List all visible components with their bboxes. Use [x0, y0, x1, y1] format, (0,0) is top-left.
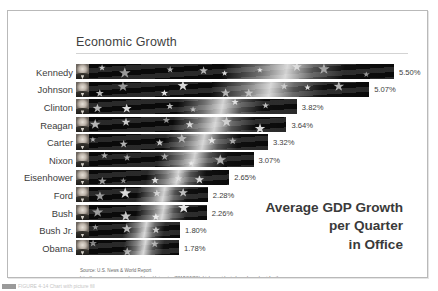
- chart-bar[interactable]: [76, 170, 229, 185]
- chart-title: Economic Growth: [76, 35, 177, 49]
- president-portrait-thumbnail: [76, 240, 89, 255]
- flag-stars-overlay: [76, 205, 207, 220]
- flag-stars-overlay: [76, 152, 254, 167]
- chart-bar-row[interactable]: Clinton3.82%: [8, 98, 428, 116]
- flag-stars-overlay: [76, 222, 180, 237]
- bar-value-label: 3.32%: [273, 138, 295, 147]
- bar-value-label: 5.50%: [399, 67, 421, 76]
- chart-bar-row[interactable]: Carter3.32%: [8, 133, 428, 151]
- flag-stars-overlay: [76, 170, 229, 185]
- bar-fill-flag: [76, 170, 229, 185]
- bar-fill-flag: [76, 64, 394, 79]
- caption-text: FIGURE 4-14 Chart with picture fill: [18, 283, 95, 289]
- bar-fill-flag: [76, 82, 369, 97]
- bar-category-label: Clinton: [44, 101, 73, 112]
- president-portrait-thumbnail: [76, 99, 89, 114]
- bar-fill-flag: [76, 152, 254, 167]
- source-name: Source: U.S. News & World Report: [80, 267, 302, 275]
- bar-value-label: 2.65%: [234, 173, 256, 182]
- chart-callout-text: Average GDP Growth per Quarter in Office: [213, 199, 403, 254]
- bar-value-label: 5.07%: [374, 85, 396, 94]
- title-underline-rule: [76, 53, 408, 54]
- caption-chip: [2, 284, 16, 289]
- bar-fill-flag: [76, 117, 286, 132]
- chart-bar[interactable]: [76, 187, 208, 202]
- president-portrait-thumbnail: [76, 82, 89, 97]
- president-portrait-thumbnail: [76, 152, 89, 167]
- bar-category-label: Kennedy: [36, 66, 73, 77]
- bar-category-label: Ford: [54, 189, 73, 200]
- chart-bar[interactable]: [76, 117, 286, 132]
- slide-frame: Economic Growth Kennedy5.50%Johnson5.07%…: [7, 10, 428, 278]
- source-attribution: Source: U.S. News & World Report http://…: [80, 267, 302, 278]
- callout-line-1: Average GDP Growth: [213, 199, 403, 217]
- president-portrait-thumbnail: [76, 222, 89, 237]
- chart-bar[interactable]: [76, 240, 179, 255]
- flag-stars-overlay: [76, 82, 369, 97]
- chart-bar-row[interactable]: Nixon3.07%: [8, 151, 428, 169]
- president-portrait-thumbnail: [76, 205, 89, 220]
- flag-stars-overlay: [76, 187, 208, 202]
- president-portrait-thumbnail: [76, 187, 89, 202]
- bar-fill-flag: [76, 222, 180, 237]
- bar-category-label: Bush: [52, 207, 73, 218]
- bar-value-label: 1.78%: [184, 243, 206, 252]
- source-url[interactable]: http://www.usnews.com/news/blogs/data-mi…: [80, 275, 302, 278]
- bar-value-label: 3.64%: [291, 120, 313, 129]
- chart-bar[interactable]: [76, 205, 207, 220]
- bar-fill-flag: [76, 134, 268, 149]
- chart-bar[interactable]: [76, 134, 268, 149]
- bar-category-label: Bush Jr.: [39, 225, 73, 236]
- flag-stars-overlay: [76, 240, 179, 255]
- chart-bar-row[interactable]: Reagan3.64%: [8, 116, 428, 134]
- callout-line-3: in Office: [213, 236, 403, 254]
- chart-bar-row[interactable]: Kennedy5.50%: [8, 63, 428, 81]
- bar-value-label: 3.07%: [259, 155, 281, 164]
- chart-bar-row[interactable]: Eisenhower2.65%: [8, 169, 428, 187]
- bar-category-label: Eisenhower: [24, 172, 73, 183]
- figure-caption-cropped: FIGURE 4-14 Chart with picture fill: [2, 283, 302, 291]
- bar-category-label: Nixon: [49, 154, 73, 165]
- bar-category-label: Obama: [42, 242, 73, 253]
- chart-bar[interactable]: [76, 152, 254, 167]
- bar-fill-flag: [76, 99, 297, 114]
- president-portrait-thumbnail: [76, 134, 89, 149]
- flag-stars-overlay: [76, 64, 394, 79]
- bar-category-label: Johnson: [38, 84, 73, 95]
- chart-bar[interactable]: [76, 82, 369, 97]
- bar-category-label: Reagan: [40, 119, 73, 130]
- president-portrait-thumbnail: [76, 170, 89, 185]
- bar-category-label: Carter: [47, 137, 73, 148]
- flag-stars-overlay: [76, 117, 286, 132]
- bar-fill-flag: [76, 205, 207, 220]
- flag-stars-overlay: [76, 99, 297, 114]
- bar-value-label: 1.80%: [185, 226, 207, 235]
- president-portrait-thumbnail: [76, 64, 89, 79]
- callout-line-2: per Quarter: [213, 217, 403, 235]
- chart-bar[interactable]: [76, 222, 180, 237]
- chart-bar[interactable]: [76, 64, 394, 79]
- flag-stars-overlay: [76, 134, 268, 149]
- bar-value-label: 3.82%: [302, 102, 324, 111]
- bar-fill-flag: [76, 187, 208, 202]
- president-portrait-thumbnail: [76, 117, 89, 132]
- bar-fill-flag: [76, 240, 179, 255]
- chart-bar-row[interactable]: Johnson5.07%: [8, 81, 428, 99]
- chart-bar[interactable]: [76, 99, 297, 114]
